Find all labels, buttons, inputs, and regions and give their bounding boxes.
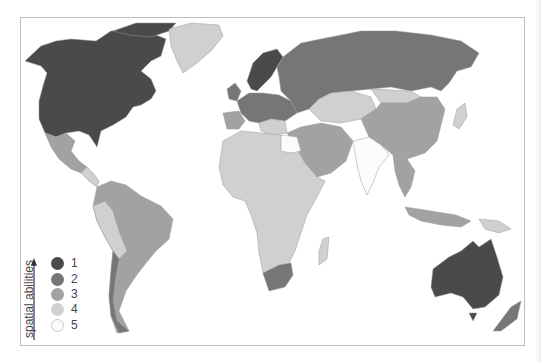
legend-item-1: 1 xyxy=(51,256,78,270)
legend-item-2: 2 xyxy=(51,272,78,286)
legend-swatch-3 xyxy=(51,288,64,301)
map-frame: spatial abilities 1 2 3 4 5 xyxy=(20,17,525,346)
region-north-america xyxy=(25,29,166,147)
region-russia xyxy=(277,31,479,113)
region-mexico xyxy=(45,133,87,173)
legend-swatch-4 xyxy=(51,303,64,316)
legend-item-3: 3 xyxy=(51,287,78,301)
region-madagascar xyxy=(319,237,329,265)
legend-label-1: 1 xyxy=(71,256,78,270)
region-uk xyxy=(227,83,241,101)
legend-label-2: 2 xyxy=(71,272,78,286)
region-japan xyxy=(453,103,467,129)
legend-label-4: 4 xyxy=(71,302,78,316)
legend: spatial abilities 1 2 3 4 5 xyxy=(21,256,111,346)
region-central-america xyxy=(81,167,99,187)
region-new-zealand xyxy=(493,301,521,331)
legend-swatch-5 xyxy=(51,319,64,332)
region-southeast-asia xyxy=(393,155,415,197)
legend-swatch-1 xyxy=(51,257,64,270)
legend-label-5: 5 xyxy=(71,318,78,332)
region-tasmania xyxy=(469,313,477,321)
region-new-guinea xyxy=(479,219,511,233)
arrow-up-icon xyxy=(31,258,37,340)
legend-item-4: 4 xyxy=(51,302,78,316)
legend-swatch-2 xyxy=(51,273,64,286)
region-balkans xyxy=(259,119,287,135)
legend-item-5: 5 xyxy=(51,318,78,332)
region-greenland xyxy=(169,23,223,73)
legend-label-3: 3 xyxy=(71,287,78,301)
region-australia xyxy=(431,239,503,309)
region-indonesia xyxy=(405,207,471,227)
page-edge-shadow xyxy=(535,0,541,362)
